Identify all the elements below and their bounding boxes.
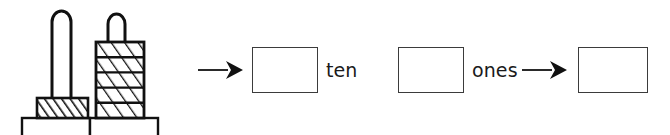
platform-left [22, 118, 90, 135]
tens-answer-box[interactable] [252, 47, 318, 93]
arrow-to-total-icon [522, 61, 567, 79]
arrow-to-tens-icon [198, 61, 243, 79]
ones-label: ones [472, 61, 518, 80]
ones-cube-stack [96, 14, 144, 118]
ten-rod [37, 11, 88, 118]
total-answer-box[interactable] [578, 47, 648, 93]
tens-label: ten [326, 61, 357, 80]
platform-right [90, 118, 158, 135]
place-value-worksheet: ten ones [0, 0, 670, 135]
ones-answer-box[interactable] [398, 47, 464, 93]
